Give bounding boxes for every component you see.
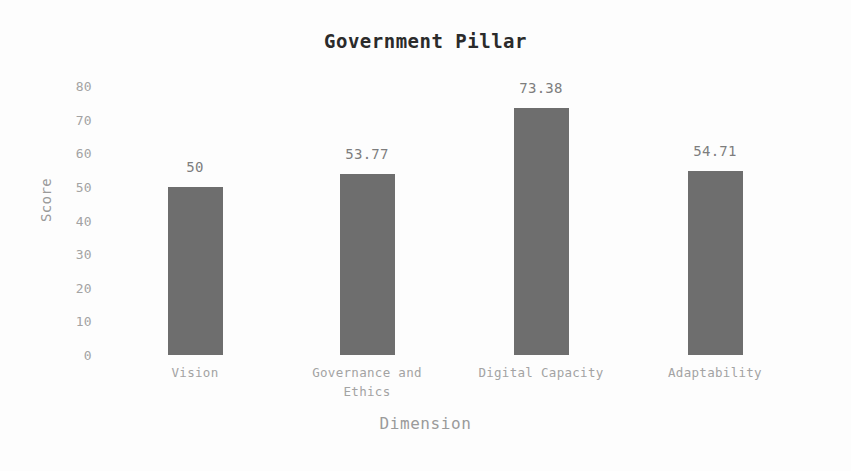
x-axis-tick-labels: VisionGovernance andEthicsDigital Capaci…	[0, 363, 851, 411]
bar-value-label: 53.77	[345, 146, 389, 162]
x-axis-tick-label-line: Adaptability	[668, 363, 762, 382]
bar	[340, 174, 395, 355]
bar-value-label: 73.38	[519, 80, 563, 96]
x-axis-tick-label-line: Vision	[172, 363, 219, 382]
x-axis-tick-label-line: Governance and	[312, 363, 422, 382]
bar	[688, 171, 743, 355]
x-axis-tick-label: Adaptability	[668, 363, 762, 382]
x-axis-tick-label: Governance andEthics	[312, 363, 422, 401]
bar-value-label: 54.71	[693, 143, 737, 159]
x-axis-tick-label-line: Digital Capacity	[478, 363, 603, 382]
x-axis-tick-label: Digital Capacity	[478, 363, 603, 382]
x-axis-tick-label-line: Ethics	[312, 382, 422, 401]
bar-value-label: 50	[186, 159, 203, 175]
x-axis-title: Dimension	[0, 414, 851, 433]
bar	[168, 187, 223, 355]
x-axis-tick-label: Vision	[172, 363, 219, 382]
bar	[514, 108, 569, 355]
chart-figure: Government Pillar Score 8070605040302010…	[0, 0, 851, 471]
